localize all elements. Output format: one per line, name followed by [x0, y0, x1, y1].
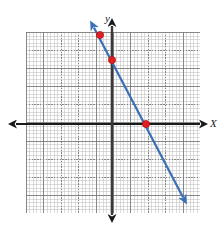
y-axis-label: y — [105, 13, 110, 24]
x-axis-label: X — [210, 118, 217, 129]
plot-overlay — [0, 0, 224, 225]
coordinate-graph-figure: y X — [0, 0, 224, 225]
plotted-line — [94, 28, 183, 198]
plot-point-3 — [142, 120, 149, 127]
plot-point-1 — [96, 31, 103, 38]
plot-point-2 — [108, 56, 115, 63]
